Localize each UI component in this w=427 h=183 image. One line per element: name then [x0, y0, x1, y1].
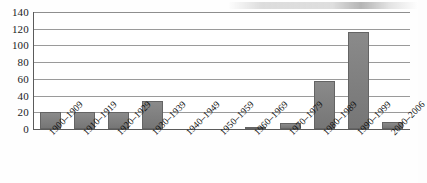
- scan-artifact-strip: [228, 2, 418, 9]
- y-tick-label-0: 0: [23, 124, 29, 135]
- y-axis-tick-labels: 020406080100120140: [0, 12, 29, 129]
- y-tick-label-40: 40: [18, 90, 29, 101]
- x-axis-tick-labels: 1900–19091910–19191920–19291930–19391940…: [33, 130, 418, 183]
- y-tick-label-140: 140: [12, 7, 29, 18]
- y-axis-line: [33, 12, 34, 130]
- bar-slot: [33, 12, 67, 129]
- y-tick-label-20: 20: [18, 107, 29, 118]
- bar: [348, 32, 369, 129]
- y-tick-label-80: 80: [18, 57, 29, 68]
- y-tick-label-60: 60: [18, 73, 29, 84]
- y-tick-label-100: 100: [12, 40, 29, 51]
- y-tick-label-120: 120: [12, 23, 29, 34]
